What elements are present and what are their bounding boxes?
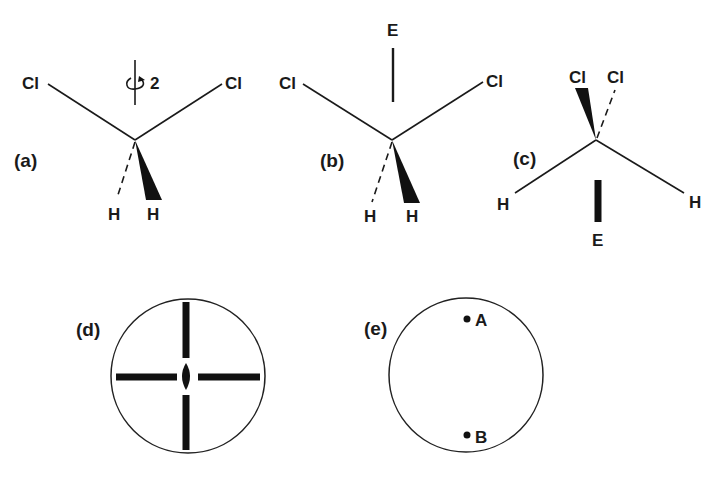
panel-label-a: (a)	[14, 150, 37, 171]
rotation-arrowhead-icon	[138, 76, 145, 82]
panel-label-b: (b)	[320, 150, 344, 171]
bond-c-cl-left	[48, 84, 135, 140]
atom-cl-right: Cl	[225, 74, 242, 93]
atom-cl-wedge: Cl	[569, 68, 586, 87]
panel-b: (b) E Cl Cl H H	[279, 21, 503, 226]
panel-e: (e) A B	[364, 298, 543, 452]
bond-c-h-right	[596, 140, 684, 193]
bond-c-cl-right	[135, 84, 222, 140]
panel-a: (a) 2 Cl Cl H H	[14, 60, 242, 224]
atom-cl-dashed: Cl	[607, 68, 624, 87]
identity-label: E	[592, 231, 603, 250]
atom-h-dashed: H	[364, 207, 376, 226]
atom-cl-left: Cl	[22, 74, 39, 93]
atom-h-dashed: H	[108, 205, 120, 224]
atom-h-right: H	[689, 193, 701, 212]
bond-c-h-dashed	[372, 142, 392, 202]
atom-h-wedge: H	[406, 207, 418, 226]
panel-label-e: (e)	[364, 318, 387, 339]
bond-c-cl-dashed	[597, 90, 615, 138]
bond-c-cl-left	[303, 84, 392, 140]
point-b-dot-icon	[464, 432, 471, 439]
bond-c-h-dashed	[117, 142, 135, 198]
point-a-label: A	[475, 311, 487, 330]
panel-label-d: (d)	[76, 319, 100, 340]
atom-h-left: H	[497, 195, 509, 214]
bond-c-cl-right	[392, 82, 483, 140]
panel-d: (d)	[76, 299, 265, 453]
point-a-dot-icon	[464, 316, 471, 323]
atom-cl-right: Cl	[486, 72, 503, 91]
point-b-label: B	[475, 428, 487, 447]
atom-cl-left: Cl	[279, 74, 296, 93]
bond-c-h-wedge	[135, 140, 162, 200]
bond-c-cl-wedge	[575, 88, 596, 140]
axis-order-label: 2	[150, 74, 159, 93]
bond-c-h-wedge	[392, 140, 420, 203]
panel-c: (c) Cl Cl H H E	[497, 68, 701, 250]
panel-label-c: (c)	[513, 148, 536, 169]
c2-axis-symbol-icon	[182, 363, 190, 390]
atom-h-wedge: H	[147, 205, 159, 224]
identity-label: E	[387, 21, 398, 40]
symmetry-figure: (a) 2 Cl Cl H H (b) E Cl Cl H H (c) Cl	[0, 0, 722, 480]
